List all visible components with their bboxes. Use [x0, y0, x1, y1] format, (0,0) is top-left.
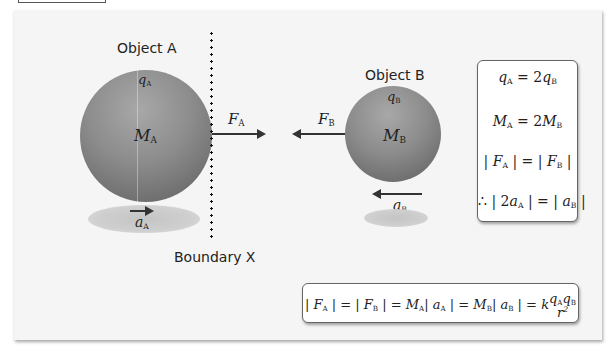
object-b-title: Object B: [365, 67, 425, 83]
object-a-title: Object A: [117, 40, 177, 56]
force-a-arrow: [212, 133, 264, 135]
object-a-accel-label: aA: [135, 214, 149, 231]
object-a-mass-label: MA: [134, 126, 157, 145]
header-tab: [18, 0, 106, 3]
coulomb-equation: | FA | = | FB | = MA| aA | = MB| aB | = …: [303, 292, 578, 319]
force-b-arrow: [294, 133, 346, 135]
relation-mass: MA = 2MB: [478, 113, 577, 130]
object-b-accel-arrow: [374, 193, 422, 195]
object-a-charge-label: qA: [138, 72, 152, 88]
equation-box: | FA | = | FB | = MA| aA | = MB| aB | = …: [302, 283, 579, 323]
relation-force: | FA | = | FB |: [478, 153, 577, 170]
force-a-label: FA: [228, 110, 244, 128]
object-a-accel-arrow: [130, 210, 152, 212]
boundary-x-line: [210, 30, 213, 242]
relations-box: qA = 2qB MA = 2MB | FA | = | FB | ∴ | 2a…: [477, 60, 578, 222]
relation-charge: qA = 2qB: [478, 69, 577, 86]
object-b-mass-label: MB: [383, 126, 406, 145]
relation-accel: ∴ | 2aA | = | aB |: [478, 193, 577, 210]
boundary-x-label: Boundary X: [174, 249, 255, 265]
object-b-charge-label: qB: [387, 89, 401, 105]
object-b-shadow: [364, 209, 428, 227]
force-b-label: FB: [318, 110, 335, 128]
